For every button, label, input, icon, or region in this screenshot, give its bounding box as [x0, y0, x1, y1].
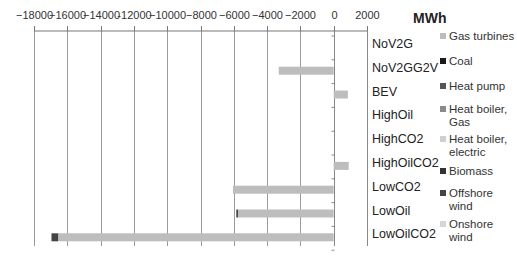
legend-swatch — [440, 136, 446, 142]
legend-swatch — [440, 221, 446, 227]
legend-swatch — [440, 106, 446, 112]
bar-segment — [238, 210, 334, 218]
legend-label: Heat boiler, — [440, 133, 507, 146]
legend-swatch — [440, 33, 446, 39]
legend-item: Biomass — [440, 165, 493, 178]
legend-item: Gas turbines — [440, 30, 514, 43]
legend-swatch — [440, 58, 446, 64]
x-tick-label: −16000 — [49, 9, 86, 21]
legend-label: Heat boiler, — [440, 103, 507, 116]
category-label: HighCO2 — [372, 132, 423, 146]
x-axis: −18000−16000−14000-12000−10000−8000−6000… — [16, 9, 380, 31]
category-label: NoV2G — [372, 37, 413, 51]
bars — [51, 67, 348, 242]
legend-label: Biomass — [440, 165, 493, 178]
legend-label: Onshore — [440, 218, 493, 231]
category-label: LowCO2 — [372, 180, 421, 194]
category-label: BEV — [372, 85, 397, 99]
legend-label: Heat pump — [440, 80, 505, 93]
legend-item: Heat boiler,electric — [440, 133, 507, 159]
legend-item: Onshorewind — [440, 218, 493, 244]
legend-item: Offshorewind — [440, 187, 493, 213]
x-tick-label: −8000 — [186, 9, 217, 21]
x-tick-label: −18000 — [16, 9, 53, 21]
legend-swatch — [440, 190, 446, 196]
legend-item: Heat pump — [440, 80, 505, 93]
legend-item: Heat boiler,Gas — [440, 103, 507, 129]
legend-label: wind — [440, 231, 493, 244]
legend-label: electric — [440, 146, 507, 159]
legend-swatch — [440, 83, 446, 89]
category-label: LowOilCO2 — [372, 227, 436, 241]
bar-segment — [279, 67, 334, 75]
bar-segment — [58, 233, 334, 241]
bar-segment — [233, 186, 334, 194]
bar-segment — [236, 210, 238, 218]
legend-label: wind — [440, 200, 493, 213]
x-tick-label: -12000 — [117, 9, 151, 21]
bar-segment — [51, 233, 58, 241]
x-tick-label: −2000 — [285, 9, 316, 21]
legend-label: Offshore — [440, 187, 493, 200]
bar-segment — [334, 162, 349, 170]
legend-label: Gas turbines — [440, 30, 514, 43]
x-tick-label: −14000 — [83, 9, 120, 21]
category-label: LowOil — [372, 204, 410, 218]
bar-segment — [334, 91, 348, 99]
category-label: NoV2GG2V — [372, 61, 438, 75]
legend-item: Coal — [440, 55, 473, 68]
category-label: HighOil — [372, 108, 413, 122]
x-tick-label: −6000 — [219, 9, 250, 21]
x-tick-label: −4000 — [252, 9, 283, 21]
x-tick-label: −10000 — [149, 9, 186, 21]
unit-label: MWh — [413, 10, 446, 26]
x-tick-label: 2000 — [355, 9, 379, 21]
category-label: HighOilCO2 — [372, 156, 439, 170]
legend-swatch — [440, 168, 446, 174]
x-tick-label: 0 — [331, 9, 337, 21]
legend-label: Gas — [440, 116, 507, 129]
